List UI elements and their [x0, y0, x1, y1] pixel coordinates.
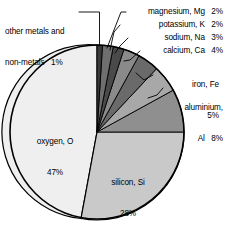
label-aluminium-line1: aluminium,	[113, 103, 223, 113]
label-silicon-line2: 28%	[92, 209, 164, 219]
label-oxygen-line2: 47%	[19, 168, 91, 178]
label-other-metals: other metals and non-metals 1%	[5, 7, 64, 89]
label-potassium: potassium, K 2%	[123, 20, 223, 30]
label-oxygen-line1: oxygen, O	[19, 137, 91, 147]
label-silicon-line1: silicon, Si	[92, 178, 164, 188]
pie-chart-figure: other metals and non-metals 1% magnesium…	[0, 0, 225, 232]
label-calcium: calcium, Ca 4%	[123, 46, 223, 56]
label-oxygen: oxygen, O 47%	[19, 117, 91, 199]
leader-line-other-metals	[79, 12, 100, 45]
label-other-metals-line2: non-metals 1%	[5, 58, 64, 68]
label-aluminium: aluminium, Al 8%	[113, 83, 223, 165]
label-magnesium: magnesium, Mg 2%	[123, 7, 223, 17]
label-sodium: sodium, Na 3%	[123, 33, 223, 43]
label-other-metals-line1: other metals and	[5, 27, 64, 37]
label-silicon: silicon, Si 28%	[92, 158, 164, 232]
label-aluminium-line2: Al 8%	[113, 134, 223, 144]
